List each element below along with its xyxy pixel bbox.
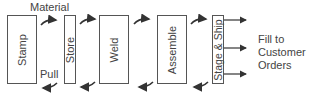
output-line-3: Orders xyxy=(258,59,306,72)
output-text: Fill to Customer Orders xyxy=(258,33,306,72)
pull-arrow-icon xyxy=(43,82,208,88)
material-arrow-icon xyxy=(41,19,206,25)
output-arrow-icon xyxy=(224,20,246,74)
output-line-1: Fill to xyxy=(258,33,306,46)
output-line-2: Customer xyxy=(258,46,306,59)
